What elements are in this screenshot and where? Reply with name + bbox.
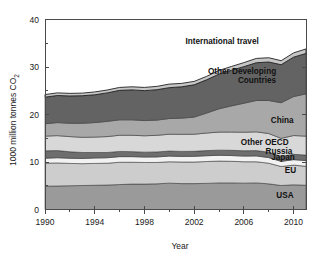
x-tick-labels: 199019941998200220062010 (36, 217, 304, 227)
y-tick-label: 30 (30, 62, 40, 72)
y-tick-label: 20 (30, 110, 40, 120)
x-tick-label: 1998 (135, 217, 154, 227)
series-label-eu: EU (285, 166, 296, 175)
y-tick-labels: 010203040 (30, 15, 40, 215)
stacked-area-chart-figure: 199019941998200220062010 010203040 USAEU… (0, 0, 332, 256)
series-label-line1: Other Developing (208, 67, 276, 76)
series-label-china: China (271, 116, 294, 125)
x-axis-title: Year (171, 241, 188, 251)
area-band-eu (45, 161, 306, 186)
series-label-russia: Russia (265, 147, 292, 156)
chart-canvas: 199019941998200220062010 010203040 USAEU… (0, 0, 332, 256)
x-tick-label: 1994 (85, 217, 104, 227)
x-tick-label: 2002 (185, 217, 204, 227)
y-tick-label: 40 (30, 15, 40, 25)
y-tick-label: 10 (30, 157, 40, 167)
y-axis-title-main: 1000 million tonnes CO (8, 77, 18, 166)
area-band-usa (45, 183, 306, 210)
y-axis-title: 1000 million tonnes CO2 (8, 74, 20, 166)
series-label-usa: USA (276, 191, 293, 200)
x-tick-label: 2006 (234, 217, 253, 227)
series-label-international-travel: International travel (186, 37, 259, 46)
y-axis-title-subscript: 2 (13, 74, 20, 78)
x-tick-label: 2010 (284, 217, 303, 227)
y-tick-label: 0 (34, 205, 39, 215)
x-tick-label: 1990 (36, 217, 55, 227)
series-label-other-oecd: Other OECD (241, 138, 289, 147)
series-label-line2: Countries (238, 76, 277, 85)
